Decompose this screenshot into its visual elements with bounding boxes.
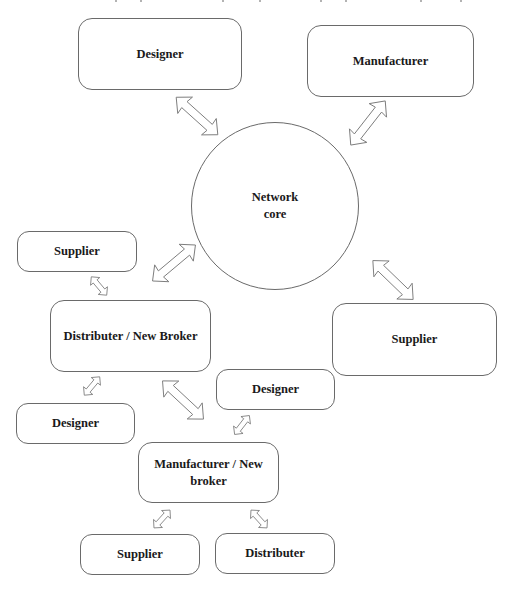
node-label-line1: Manufacturer / New <box>154 456 263 473</box>
node-label: Designer <box>136 46 183 63</box>
arrow-supplier-distributer <box>87 273 112 299</box>
node-network-core: Network core <box>191 122 359 290</box>
node-distributer-bottom: Distributer <box>215 533 335 574</box>
arrow-distributer-core <box>145 237 202 290</box>
node-designer-mid: Designer <box>216 369 335 410</box>
arrow-designer-manufacturer <box>230 412 254 438</box>
core-label-line1: Network <box>252 189 299 207</box>
node-label: Designer <box>52 415 99 432</box>
node-label: Distributer <box>245 545 305 562</box>
node-label: Manufacturer <box>353 53 428 70</box>
node-label: Distributer / New Broker <box>64 328 198 345</box>
node-manufacturer-top: Manufacturer <box>307 25 474 97</box>
node-label-line2: broker <box>154 473 263 490</box>
node-label: Supplier <box>117 546 163 563</box>
arrow-manufacturer-distributer <box>247 506 272 532</box>
arrow-manufacturer-core <box>342 94 394 152</box>
arrow-distributer-manufacturer <box>155 373 211 427</box>
node-designer-left: Designer <box>16 403 135 444</box>
node-label: Supplier <box>54 243 100 260</box>
core-label-line2: core <box>252 206 299 224</box>
node-manufacturer-broker: Manufacturer / New broker <box>138 442 279 503</box>
arrow-designer-core <box>169 89 225 143</box>
node-label: Supplier <box>392 331 438 348</box>
node-supplier-left: Supplier <box>17 231 137 272</box>
arrow-manufacturer-supplier <box>150 506 175 532</box>
node-designer-top: Designer <box>78 18 242 90</box>
node-distributer-broker: Distributer / New Broker <box>50 300 211 372</box>
arrow-supplier-core <box>365 253 421 308</box>
node-supplier-bottom: Supplier <box>80 534 200 575</box>
arrow-distributer-designer <box>80 373 105 399</box>
node-supplier-right: Supplier <box>332 303 497 376</box>
node-label: Designer <box>252 381 299 398</box>
